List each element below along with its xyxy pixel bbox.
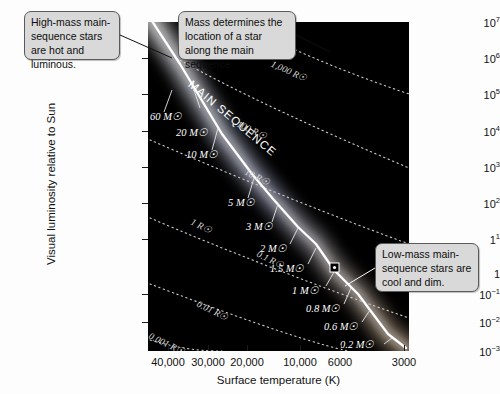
xtick-6000: 6000 [328, 356, 352, 368]
sun-marker [330, 263, 339, 272]
xtick-mark-6000 [340, 345, 341, 351]
mass-label-5: 5 M☉ [228, 196, 254, 208]
ytick-1e6: 106 [460, 52, 500, 65]
mass-label-0.8: 0.8 M☉ [306, 302, 340, 314]
ytick-mark-1e-2 [142, 322, 148, 323]
xtick-40000: 40,000 [151, 356, 185, 368]
hr-diagram-figure: MAIN SEQUENCE 60 M☉ 20 M☉ 10 M☉ 5 M☉ 3 M… [0, 0, 500, 394]
ytick-1e7: 107 [460, 16, 500, 29]
xtick-3000: 3000 [392, 356, 416, 368]
xtick-mark-20000 [247, 345, 248, 351]
mass-label-10: 10 M☉ [186, 148, 217, 160]
mass-label-60: 60 M☉ [150, 110, 181, 122]
xtick-mark-3000 [404, 345, 405, 351]
ytick-1e4: 104 [460, 125, 500, 138]
xtick-mark-30000 [208, 345, 209, 351]
ytick-mark-1e2 [142, 203, 148, 204]
yaxis-title: Visual luminosity relative to Sun [45, 74, 57, 294]
xtick-mark-40000 [168, 345, 169, 351]
xtick-30000: 30,000 [191, 356, 225, 368]
ytick-mark-1e4 [142, 131, 148, 132]
xtick-10000: 10,000 [283, 356, 317, 368]
ytick-mark-1e1 [142, 239, 148, 240]
mass-label-0.6: 0.6 M☉ [324, 320, 358, 332]
callout-low-mass: Low-mass main-sequence stars are cool an… [375, 243, 479, 292]
xtick-mark-10000 [300, 345, 301, 351]
ytick-mark-1e5 [142, 94, 148, 95]
mass-label-0.2: 0.2 M☉ [340, 338, 374, 350]
ytick-1e-2: 10−2 [460, 316, 500, 329]
callout-mass-determines: Mass determines the location of a star a… [178, 11, 296, 60]
ytick-1e3: 103 [460, 161, 500, 174]
ytick-mark-1e6 [142, 58, 148, 59]
xtick-20000: 20,000 [230, 356, 264, 368]
mass-label-20: 20 M☉ [176, 126, 207, 138]
ytick-1e-3: 10−3 [460, 345, 500, 358]
ytick-1e2: 102 [460, 197, 500, 210]
plot-area: MAIN SEQUENCE 60 M☉ 20 M☉ 10 M☉ 5 M☉ 3 M… [148, 22, 409, 351]
mass-label-3: 3 M☉ [246, 220, 272, 232]
ytick-mark-1e3 [142, 167, 148, 168]
xaxis-title: Surface temperature (K) [148, 374, 409, 386]
mass-label-1: 1 M☉ [292, 284, 318, 296]
ytick-mark-1e-1 [142, 294, 148, 295]
ytick-1e5: 105 [460, 88, 500, 101]
callout-high-mass: High-mass main-sequence stars are hot an… [24, 11, 120, 60]
